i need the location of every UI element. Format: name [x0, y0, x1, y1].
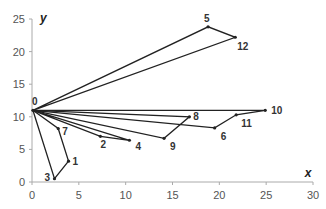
node-marker — [234, 36, 237, 39]
node-marker — [213, 126, 216, 129]
node-label-10: 10 — [271, 105, 283, 116]
node-marker — [162, 137, 165, 140]
x-tick-label: 15 — [166, 189, 178, 201]
node-label-2: 2 — [100, 139, 106, 150]
y-axis-title: y — [39, 11, 48, 25]
route-chart: 0510152025300510152025xy 012345678910111… — [0, 0, 326, 209]
node-labels: 0123456789101112 — [32, 13, 283, 183]
routes — [31, 25, 266, 180]
x-tick-label: 10 — [120, 189, 132, 201]
node-label-9: 9 — [170, 141, 176, 152]
node-marker — [206, 25, 209, 28]
node-label-8: 8 — [193, 111, 199, 122]
route-5 — [33, 110, 69, 178]
node-label-4: 4 — [135, 141, 141, 152]
y-tick-label: 25 — [13, 13, 25, 25]
node-label-6: 6 — [221, 131, 227, 142]
node-label-7: 7 — [62, 126, 68, 137]
node-label-0: 0 — [32, 96, 38, 107]
node-marker — [31, 109, 34, 112]
x-tick-label: 0 — [29, 189, 35, 201]
y-tick-label: 10 — [13, 111, 25, 123]
y-tick-label: 20 — [13, 46, 25, 58]
y-tick-label: 0 — [19, 176, 25, 188]
node-marker — [235, 113, 238, 116]
node-label-1: 1 — [73, 156, 79, 167]
x-tick-label: 5 — [76, 189, 82, 201]
node-marker — [99, 135, 102, 138]
node-marker — [53, 177, 56, 180]
y-tick-label: 5 — [19, 143, 25, 155]
node-label-3: 3 — [44, 172, 50, 183]
node-label-11: 11 — [241, 118, 252, 129]
x-tick-label: 25 — [260, 189, 272, 201]
x-axis-title: x — [304, 166, 313, 180]
x-tick-label: 20 — [213, 189, 225, 201]
node-label-12: 12 — [237, 41, 249, 52]
node-label-5: 5 — [204, 13, 210, 24]
node-marker — [188, 115, 191, 118]
node-marker — [128, 139, 131, 142]
x-tick-label: 30 — [307, 189, 319, 201]
y-tick-label: 15 — [13, 78, 25, 90]
node-marker — [67, 160, 70, 163]
node-marker — [57, 127, 60, 130]
route-1 — [33, 27, 235, 111]
node-marker — [264, 109, 267, 112]
